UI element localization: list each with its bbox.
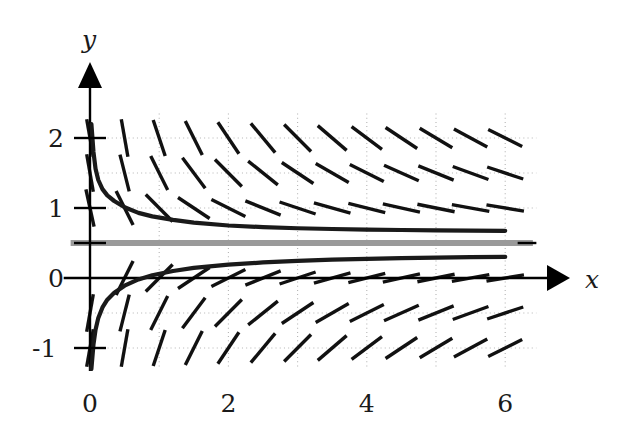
- axes: [64, 62, 570, 371]
- y-tick-label: -1: [32, 334, 56, 363]
- y-tick-label: 1: [48, 194, 64, 223]
- x-axis-label: x: [585, 265, 599, 294]
- x-tick-label: 4: [359, 389, 375, 418]
- figure-canvas: 210-10246 x y: [0, 0, 627, 441]
- x-tick-label: 0: [82, 389, 98, 418]
- x-tick-label: 2: [220, 389, 236, 418]
- tick-labels: 210-10246: [32, 124, 513, 418]
- y-axis-label: y: [81, 25, 97, 54]
- slope-field-chart: 210-10246 x y: [0, 0, 627, 441]
- y-tick-label: 0: [48, 264, 64, 293]
- y-tick-label: 2: [48, 124, 64, 153]
- x-tick-label: 6: [497, 389, 513, 418]
